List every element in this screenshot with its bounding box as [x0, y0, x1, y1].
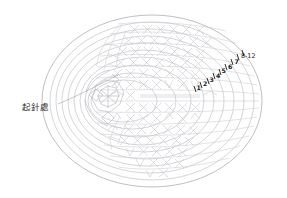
cross-stitch — [139, 147, 148, 156]
start-point-label: 起針處 — [22, 102, 49, 112]
cross-stitch — [137, 36, 146, 45]
round-label-1: 1 — [197, 84, 201, 91]
cross-stitch — [181, 58, 190, 67]
angle-stitch — [203, 91, 217, 95]
v-stitch — [126, 148, 134, 156]
guide-line — [100, 126, 254, 136]
cross-stitch — [150, 36, 159, 45]
stitch-row — [113, 80, 199, 89]
cross-stitch — [165, 147, 174, 156]
cross-stitch — [152, 80, 161, 89]
stitch-row — [116, 58, 203, 68]
cross-stitch — [169, 25, 178, 34]
cross-stitch — [139, 114, 148, 123]
cross-stitch — [143, 25, 152, 34]
guide-line — [97, 117, 257, 124]
cross-stitch — [126, 103, 135, 112]
cross-stitch — [126, 80, 135, 89]
cross-stitch — [152, 69, 161, 78]
guide-line — [96, 90, 259, 94]
cross-stitch — [178, 103, 187, 112]
cross-stitch — [146, 136, 155, 145]
cross-stitch — [133, 136, 142, 145]
round-label-6: 6 — [228, 63, 232, 70]
cross-stitch — [178, 148, 187, 157]
cross-stitch — [159, 136, 168, 145]
cross-stitch — [194, 59, 203, 68]
pattern-chart-canvas: 1 2 3 4 5 6 7 8-12 起針處 — [0, 0, 287, 198]
cross-stitch — [139, 103, 148, 112]
cross-stitch — [195, 26, 204, 35]
cross-stitch — [152, 114, 161, 123]
cross-stitch — [202, 38, 211, 47]
cross-stitch — [155, 58, 164, 67]
round-label-2: 2 — [203, 80, 207, 87]
cross-stitch — [139, 80, 148, 89]
cross-stitch — [191, 103, 200, 112]
cross-stitch — [175, 159, 184, 168]
cross-stitch — [162, 158, 171, 167]
v-stitch — [146, 170, 154, 177]
fan-line — [96, 27, 118, 66]
guide-line — [96, 108, 259, 112]
round-label-3: 3 — [210, 76, 214, 83]
cross-stitch — [191, 70, 200, 79]
cross-stitch — [176, 125, 185, 134]
round-label-8-12: 8-12 — [241, 52, 256, 60]
stitch-row — [113, 113, 199, 123]
cross-stitch — [126, 91, 135, 100]
cross-stitch — [165, 103, 174, 112]
cross-stitch — [176, 36, 185, 45]
stitch-row — [118, 47, 205, 58]
cross-stitch — [178, 114, 187, 123]
fan-line — [118, 120, 128, 144]
stitch-row — [110, 91, 217, 100]
cross-stitch — [183, 48, 192, 57]
cross-stitch — [120, 136, 129, 145]
cross-stitch — [189, 37, 198, 46]
stitch-row — [136, 158, 184, 168]
cross-stitch — [159, 169, 168, 177]
stitch-row — [126, 147, 187, 157]
cross-stitch — [124, 125, 133, 134]
cross-stitch — [178, 69, 187, 78]
cross-stitch — [168, 58, 177, 67]
guide-line — [110, 146, 240, 158]
cross-stitch — [126, 69, 135, 78]
round-label-7: 7 — [235, 58, 239, 65]
pattern-diagram: 1 2 3 4 5 6 7 8-12 起針處 — [0, 0, 287, 198]
v-stitch — [165, 80, 173, 88]
round-label-5: 5 — [222, 67, 226, 74]
angle-stitch — [191, 113, 199, 119]
cross-stitch — [196, 49, 205, 58]
cross-stitch — [137, 125, 146, 134]
fan-line — [104, 24, 122, 70]
cross-stitch — [150, 125, 159, 134]
round-label-4: 4 — [216, 72, 221, 79]
